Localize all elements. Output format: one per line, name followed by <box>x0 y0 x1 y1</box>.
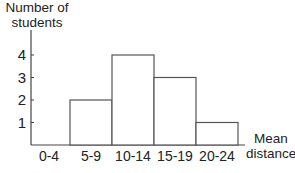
y-tick-label: 2 <box>18 91 26 108</box>
x-tick-labels: 0-45-910-1415-1920-24 <box>39 148 235 164</box>
histogram-bar-10-14 <box>112 55 154 145</box>
histogram-bar-5-9 <box>70 100 112 145</box>
x-tick-label: 0-4 <box>39 148 59 164</box>
x-axis-label: Mean distance <box>246 131 295 161</box>
x-tick-label: 15-19 <box>157 148 193 164</box>
y-tick-label: 3 <box>18 69 26 86</box>
y-tick-label: 1 <box>18 114 26 131</box>
bars <box>70 55 238 145</box>
histogram-bar-15-19 <box>154 78 196 146</box>
x-axis-label-line2: distance <box>246 146 295 161</box>
x-tick-label: 20-24 <box>199 148 235 164</box>
histogram-bar-20-24 <box>196 123 238 146</box>
x-tick-label: 5-9 <box>81 148 101 164</box>
x-tick-label: 10-14 <box>115 148 151 164</box>
y-tick-label: 4 <box>18 46 26 63</box>
x-axis-label-line1: Mean <box>246 131 295 146</box>
